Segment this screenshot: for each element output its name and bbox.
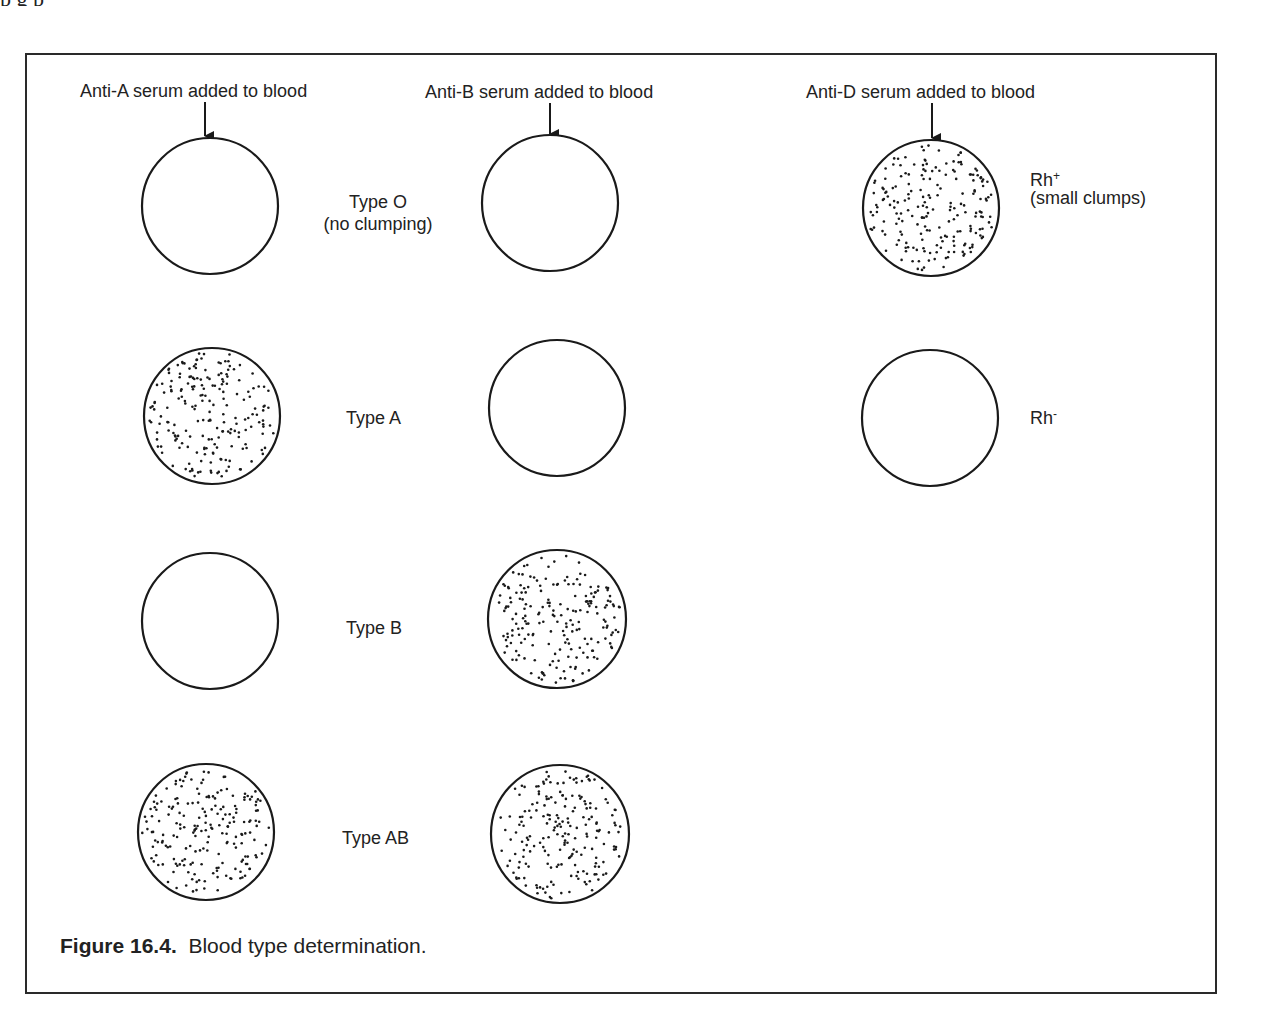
rh-sublabel-text: (small clumps) (1030, 188, 1146, 208)
row-label-type-a: Type A (346, 407, 401, 429)
rh-label-text: Rh (1030, 170, 1053, 190)
row-label-type-b: Type B (346, 617, 402, 639)
sample-well-anti-a-type-a (144, 348, 280, 484)
figure-number: Figure 16.4. (60, 934, 177, 957)
column-header-anti-b: Anti-B serum added to blood (425, 81, 653, 103)
figure-caption: Figure 16.4. Blood type determination. (60, 934, 427, 958)
rh-positive-label: Rh+ (small clumps) (1030, 170, 1146, 208)
sample-well-anti-a-type-b (142, 553, 278, 689)
blood-typing-diagram (0, 0, 1261, 1023)
rh-superscript: - (1053, 407, 1057, 421)
sample-well-anti-b-type-o (482, 135, 618, 271)
rh-label-text: Rh (1030, 408, 1053, 428)
rh-negative-label: Rh- (1030, 407, 1057, 429)
row-label-type-o: Type O (no clumping) (308, 191, 448, 235)
column-header-anti-d: Anti-D serum added to blood (806, 81, 1035, 103)
sample-well-anti-b-type-b (488, 550, 626, 688)
figure-caption-text: Blood type determination. (188, 934, 426, 957)
sample-well-anti-b-type-a (489, 340, 625, 476)
rh-superscript: + (1053, 169, 1060, 183)
row-label-type-ab: Type AB (342, 827, 409, 849)
column-header-anti-a: Anti-A serum added to blood (80, 80, 307, 102)
sample-well-anti-b-type-ab (491, 765, 629, 903)
row-label-text: Type O (308, 191, 448, 213)
row-sublabel-text: (no clumping) (308, 213, 448, 235)
sample-well-anti-a-type-o (142, 138, 278, 274)
sample-well-anti-a-type-ab (138, 764, 274, 900)
sample-well-anti-d-rh-negative (862, 350, 998, 486)
sample-well-anti-d-rh-positive (863, 140, 999, 276)
